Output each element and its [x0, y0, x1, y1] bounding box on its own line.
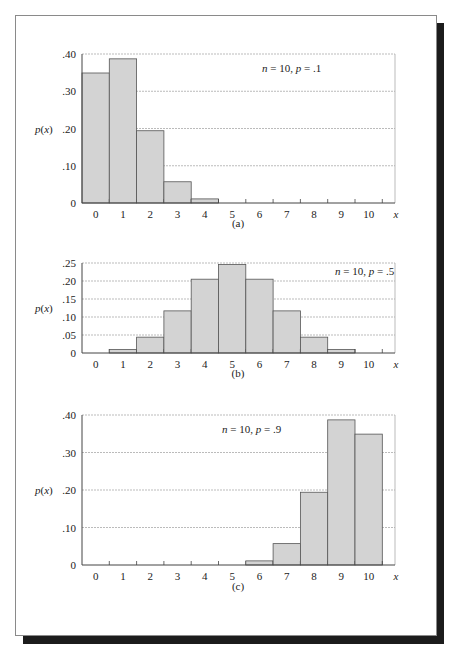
y-tick-label: .15	[62, 293, 76, 305]
bar-x-6	[246, 279, 273, 353]
y-tick-label: .20	[62, 484, 76, 496]
y-tick-label: 0	[71, 559, 77, 571]
chart-b: 0.05.10.15.20.25012345678910xp(x)n = 10,…	[34, 257, 399, 380]
x-tick-label: 7	[284, 208, 290, 220]
x-tick-label: 4	[202, 208, 208, 220]
x-tick-label: 2	[148, 358, 154, 370]
x-tick-label: 7	[284, 358, 290, 370]
x-tick-label: 4	[202, 570, 208, 582]
parameter-annotation: n = 10, p = .5	[335, 265, 395, 277]
bar-x-3	[164, 182, 191, 203]
y-tick-label: .20	[62, 123, 76, 135]
x-tick-label: 6	[257, 358, 263, 370]
x-axis-label: x	[393, 358, 399, 370]
x-tick-label: 2	[148, 208, 154, 220]
bar-x-9	[328, 349, 355, 353]
x-tick-label: 6	[257, 208, 263, 220]
y-axis-label: p(x)	[34, 302, 53, 315]
x-tick-label: 2	[148, 570, 154, 582]
bar-x-7	[273, 544, 300, 565]
x-tick-label: 0	[93, 570, 99, 582]
x-tick-label: 9	[339, 570, 345, 582]
bar-x-1	[109, 59, 136, 203]
x-tick-label: 6	[257, 570, 263, 582]
bar-x-8	[300, 337, 327, 353]
chart-caption: (b)	[232, 367, 245, 380]
parameter-annotation: n = 10, p = .9	[222, 423, 282, 435]
x-tick-label: 8	[311, 358, 317, 370]
y-tick-label: .10	[62, 160, 76, 172]
x-tick-label: 8	[311, 208, 317, 220]
parameter-annotation: n = 10, p = .1	[262, 62, 321, 74]
x-tick-label: 10	[363, 208, 375, 220]
chart-caption: (a)	[232, 217, 245, 230]
x-tick-label: 4	[202, 358, 208, 370]
y-tick-label: 0	[71, 197, 77, 209]
bar-x-2	[137, 131, 164, 203]
y-tick-label: .40	[62, 409, 76, 421]
chart-a: 0.10.20.30.40012345678910xp(x)n = 10, p …	[34, 48, 399, 230]
chart-caption: (c)	[232, 580, 245, 593]
bar-x-6	[246, 561, 273, 565]
y-tick-label: .30	[62, 85, 76, 97]
bar-x-0	[82, 73, 109, 203]
x-axis-label: x	[393, 208, 399, 220]
y-tick-label: 0	[71, 347, 77, 359]
y-axis-label: p(x)	[34, 123, 53, 136]
x-tick-label: 3	[175, 358, 181, 370]
bar-x-5	[219, 264, 246, 353]
bar-x-10	[355, 434, 382, 565]
y-tick-label: .40	[62, 48, 76, 60]
y-tick-label: .10	[62, 522, 76, 534]
bar-x-4	[191, 279, 218, 353]
y-tick-label: .20	[62, 275, 76, 287]
x-tick-label: 7	[284, 570, 290, 582]
x-tick-label: 0	[93, 358, 99, 370]
x-tick-label: 9	[339, 208, 345, 220]
x-tick-label: 8	[311, 570, 317, 582]
x-tick-label: 1	[120, 208, 126, 220]
y-tick-label: .05	[62, 329, 76, 341]
bar-x-4	[191, 199, 218, 203]
x-tick-label: 1	[120, 570, 126, 582]
bar-x-8	[300, 492, 327, 565]
x-tick-label: 3	[175, 208, 181, 220]
bar-x-2	[137, 337, 164, 353]
x-tick-label: 10	[363, 358, 375, 370]
x-axis-label: x	[393, 570, 399, 582]
bar-x-7	[273, 311, 300, 353]
bar-x-3	[164, 311, 191, 353]
x-tick-label: 0	[93, 208, 99, 220]
x-tick-label: 1	[120, 358, 126, 370]
y-axis-label: p(x)	[34, 484, 53, 497]
bar-x-9	[328, 420, 355, 565]
y-tick-label: .10	[62, 311, 76, 323]
y-tick-label: .30	[62, 447, 76, 459]
binomial-charts: 0.10.20.30.40012345678910xp(x)n = 10, p …	[0, 0, 456, 658]
y-tick-label: .25	[62, 257, 76, 269]
bar-x-1	[109, 349, 136, 353]
x-tick-label: 10	[363, 570, 375, 582]
x-tick-label: 3	[175, 570, 181, 582]
x-tick-label: 9	[339, 358, 345, 370]
chart-c: 0.10.20.30.40012345678910xp(x)n = 10, p …	[34, 409, 399, 593]
